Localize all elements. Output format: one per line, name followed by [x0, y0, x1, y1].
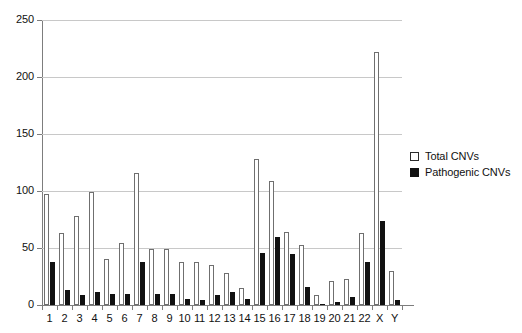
- y-tick-label-150: 150: [0, 128, 34, 139]
- bar-group-3: [72, 20, 87, 305]
- bar-group-9: [162, 20, 177, 305]
- legend-item-total-cnvs: Total CNVs: [410, 148, 510, 164]
- bar-pathogenic-7: [140, 262, 145, 305]
- x-tick-mark-8: [147, 305, 148, 310]
- x-tick-mark-21: [342, 305, 343, 310]
- bar-group-4: [87, 20, 102, 305]
- bar-group-6: [117, 20, 132, 305]
- bar-group-15: [252, 20, 267, 305]
- x-tick-mark-7: [132, 305, 133, 310]
- x-tick-label-10: 10: [177, 312, 192, 324]
- x-tick-mark-22: [357, 305, 358, 310]
- bar-total-8: [149, 249, 154, 305]
- plot-area: [42, 20, 402, 305]
- bar-group-10: [177, 20, 192, 305]
- legend-item-pathogenic-cnvs: Pathogenic CNVs: [410, 164, 510, 180]
- open-square-icon: [410, 152, 419, 161]
- bar-total-12: [209, 265, 214, 305]
- filled-square-icon: [410, 168, 419, 177]
- bar-group-14: [237, 20, 252, 305]
- bar-pathogenic-4: [95, 292, 100, 305]
- cnv-bar-chart: 050100150200250 123456789101112131415161…: [0, 0, 522, 333]
- x-tick-label-1: 1: [42, 312, 57, 324]
- bar-total-18: [299, 245, 304, 305]
- bar-group-2: [57, 20, 72, 305]
- bar-pathogenic-2: [65, 290, 70, 305]
- bar-total-1: [44, 194, 49, 305]
- x-tick-mark-6: [117, 305, 118, 310]
- bar-total-19: [314, 295, 319, 305]
- bar-pathogenic-21: [350, 297, 355, 305]
- legend-label-total-cnvs: Total CNVs: [425, 149, 479, 163]
- bar-pathogenic-5: [110, 294, 115, 305]
- legend-label-pathogenic-cnvs: Pathogenic CNVs: [425, 165, 510, 179]
- x-tick-label-5: 5: [102, 312, 117, 324]
- x-tick-label-X: X: [372, 312, 387, 324]
- bar-group-20: [327, 20, 342, 305]
- x-tick-label-20: 20: [327, 312, 342, 324]
- bar-pathogenic-17: [290, 254, 295, 305]
- x-tick-label-13: 13: [222, 312, 237, 324]
- bar-pathogenic-1: [50, 262, 55, 305]
- bar-group-19: [312, 20, 327, 305]
- bar-group-12: [207, 20, 222, 305]
- bar-group-16: [267, 20, 282, 305]
- x-tick-label-21: 21: [342, 312, 357, 324]
- x-tick-mark-14: [237, 305, 238, 310]
- bar-pathogenic-14: [245, 299, 250, 305]
- x-tick-label-3: 3: [72, 312, 87, 324]
- x-tick-mark-19: [312, 305, 313, 310]
- x-tick-label-4: 4: [87, 312, 102, 324]
- x-tick-label-9: 9: [162, 312, 177, 324]
- x-tick-label-17: 17: [282, 312, 297, 324]
- bar-total-9: [164, 249, 169, 305]
- x-tick-mark-4: [87, 305, 88, 310]
- bar-pathogenic-11: [200, 300, 205, 305]
- x-tick-label-15: 15: [252, 312, 267, 324]
- bar-pathogenic-12: [215, 295, 220, 305]
- bar-total-20: [329, 281, 334, 305]
- x-tick-label-22: 22: [357, 312, 372, 324]
- x-tick-mark-20: [327, 305, 328, 310]
- bars-layer: [42, 20, 402, 305]
- x-tick-mark-end: [402, 305, 403, 310]
- x-tick-mark-13: [222, 305, 223, 310]
- x-tick-mark-15: [252, 305, 253, 310]
- x-tick-label-7: 7: [132, 312, 147, 324]
- x-tick-mark-2: [57, 305, 58, 310]
- bar-pathogenic-19: [320, 304, 325, 305]
- x-tick-mark-12: [207, 305, 208, 310]
- bar-total-15: [254, 159, 259, 305]
- bar-total-22: [359, 233, 364, 305]
- bar-total-5: [104, 259, 109, 305]
- x-tick-mark-1: [42, 305, 43, 310]
- bar-pathogenic-X: [380, 221, 385, 305]
- bar-group-21: [342, 20, 357, 305]
- x-tick-mark-X: [372, 305, 373, 310]
- x-tick-label-8: 8: [147, 312, 162, 324]
- x-tick-label-18: 18: [297, 312, 312, 324]
- x-tick-mark-5: [102, 305, 103, 310]
- bar-pathogenic-20: [335, 302, 340, 305]
- bar-group-1: [42, 20, 57, 305]
- bar-group-X: [372, 20, 387, 305]
- bar-pathogenic-10: [185, 299, 190, 305]
- bar-group-11: [192, 20, 207, 305]
- y-tick-label-200: 200: [0, 71, 34, 82]
- bar-group-Y: [387, 20, 402, 305]
- x-tick-mark-9: [162, 305, 163, 310]
- x-tick-label-Y: Y: [387, 312, 402, 324]
- x-tick-mark-18: [297, 305, 298, 310]
- bar-total-14: [239, 288, 244, 305]
- x-tick-label-16: 16: [267, 312, 282, 324]
- bar-pathogenic-9: [170, 294, 175, 305]
- bar-total-6: [119, 243, 124, 305]
- bar-total-2: [59, 233, 64, 305]
- x-tick-mark-11: [192, 305, 193, 310]
- bar-total-3: [74, 216, 79, 305]
- bar-group-5: [102, 20, 117, 305]
- x-tick-label-12: 12: [207, 312, 222, 324]
- bar-total-Y: [389, 271, 394, 305]
- bar-total-4: [89, 192, 94, 305]
- x-tick-mark-Y: [387, 305, 388, 310]
